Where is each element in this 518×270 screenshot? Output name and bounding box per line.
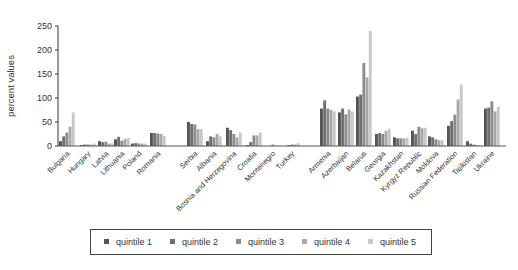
bar: [330, 110, 333, 146]
bar: [320, 109, 323, 146]
bar: [348, 110, 351, 146]
bar: [163, 136, 166, 146]
bar: [326, 109, 329, 146]
bar: [72, 112, 75, 146]
bar: [69, 127, 72, 146]
bars: [59, 31, 500, 146]
bar-group: [320, 100, 336, 146]
legend-swatch-icon: [368, 239, 373, 244]
bar: [406, 138, 409, 146]
bar: [375, 134, 378, 146]
bar-group: [338, 109, 354, 146]
bar: [160, 134, 163, 146]
bar: [212, 137, 215, 146]
bar: [453, 115, 456, 146]
bar: [366, 77, 369, 146]
bar: [104, 142, 107, 146]
bar: [428, 136, 431, 146]
bar: [457, 99, 460, 146]
legend-swatch-icon: [302, 239, 307, 244]
bar-group: [187, 122, 203, 146]
y-axis-label: percent values: [5, 55, 16, 117]
bar: [333, 111, 336, 146]
bar: [216, 134, 219, 146]
bar-group: [428, 136, 444, 146]
bar: [59, 141, 62, 146]
bar: [393, 137, 396, 146]
bar: [494, 111, 497, 146]
bar-group: [393, 137, 409, 146]
legend-label: quintile 2: [182, 237, 218, 247]
bar: [378, 133, 381, 146]
bar: [338, 112, 341, 146]
bar-group: [246, 133, 262, 146]
bar: [414, 134, 417, 146]
bar-group: [114, 137, 130, 146]
bar: [252, 135, 255, 146]
bar: [150, 133, 153, 146]
bar: [441, 140, 444, 146]
bar: [114, 139, 117, 146]
y-tick-label: 250: [37, 21, 52, 31]
bar: [62, 136, 65, 146]
bar: [351, 111, 354, 146]
bar: [209, 136, 212, 146]
bar: [396, 138, 399, 146]
bar: [117, 137, 120, 146]
bar: [153, 133, 156, 146]
bar-group: [98, 141, 114, 146]
bar: [369, 31, 372, 146]
y-axis: 050100150200250: [37, 21, 58, 151]
legend-swatch-icon: [170, 239, 175, 244]
y-tick-label: 150: [37, 69, 52, 79]
bar: [193, 124, 196, 146]
bar: [438, 140, 441, 146]
bar-group: [484, 101, 500, 146]
bar-group: [226, 128, 242, 146]
bar: [323, 100, 326, 146]
bar: [124, 139, 127, 146]
bar: [127, 138, 130, 146]
category-label: Turkey: [274, 149, 297, 172]
legend: quintile 1quintile 2quintile 3quintile 4…: [91, 230, 432, 255]
bar-group: [447, 85, 463, 146]
bar: [200, 129, 203, 146]
bar: [381, 134, 384, 146]
bar-group: [59, 112, 75, 146]
bar: [490, 101, 493, 146]
bar: [259, 133, 262, 146]
bar: [359, 95, 362, 146]
bar: [98, 141, 101, 146]
bar: [450, 121, 453, 146]
bar: [341, 109, 344, 146]
bar-group: [206, 134, 222, 146]
bar: [487, 108, 490, 146]
legend-label: quintile 4: [314, 237, 350, 247]
bar: [190, 124, 193, 146]
legend-swatch-icon: [104, 239, 109, 244]
bar: [388, 129, 391, 146]
y-tick-label: 200: [37, 45, 52, 55]
bar: [65, 133, 68, 146]
bar: [460, 85, 463, 146]
bar: [226, 128, 229, 146]
bar-chart: 050100150200250 percent values BulgariaH…: [0, 0, 518, 270]
bar: [466, 141, 469, 146]
bar: [219, 136, 222, 146]
bar: [403, 138, 406, 146]
bar: [197, 129, 200, 146]
bar: [421, 128, 424, 146]
bar: [229, 130, 232, 146]
bar: [417, 127, 420, 146]
bar: [236, 137, 239, 146]
bar: [256, 135, 259, 146]
y-tick-label: 0: [47, 141, 52, 151]
bar: [356, 97, 359, 146]
category-labels: BulgariaHungaryLatviaLithuaniaPolandRoma…: [46, 148, 497, 213]
legend-label: quintile 1: [116, 237, 152, 247]
bar: [362, 63, 365, 146]
bar: [385, 131, 388, 146]
bar: [156, 134, 159, 146]
bar: [431, 137, 434, 146]
bar: [447, 126, 450, 146]
